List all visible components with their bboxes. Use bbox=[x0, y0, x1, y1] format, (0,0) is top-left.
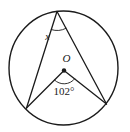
geometry-figure: x O 102° bbox=[0, 0, 130, 132]
circle-outline bbox=[9, 11, 118, 125]
central-angle-arc bbox=[55, 79, 75, 84]
central-angle-label: 102° bbox=[54, 85, 75, 97]
inscribed-angle-label: x bbox=[44, 31, 50, 42]
center-label: O bbox=[63, 52, 71, 64]
geometry-diagram: x O 102° bbox=[0, 0, 130, 132]
inscribed-angle-arc bbox=[51, 28, 66, 30]
center-dot bbox=[62, 68, 66, 72]
